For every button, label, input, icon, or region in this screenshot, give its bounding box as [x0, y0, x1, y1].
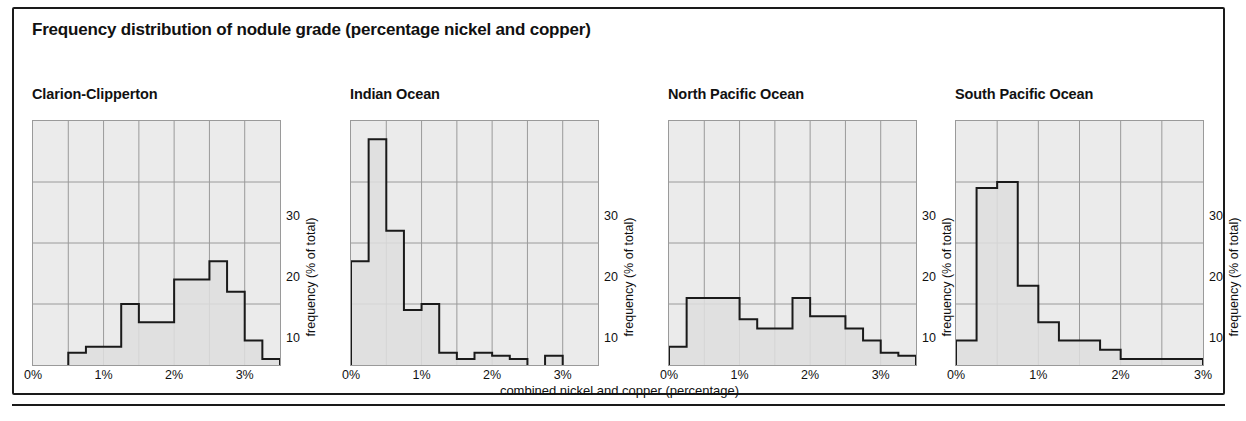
- y-axis-title: frequency (% of total): [304, 0, 324, 154]
- histogram: [669, 121, 916, 365]
- plot-wrap: 0%1%2%3% 102030 frequency (% of total): [350, 120, 599, 366]
- y-tick-label: 10: [922, 331, 936, 345]
- histogram: [351, 121, 598, 365]
- histogram: [956, 121, 1203, 365]
- histogram-fill: [351, 139, 598, 365]
- panel-indian-ocean: Indian Ocean 0%1%2%3% 102030 frequency (…: [350, 86, 646, 386]
- y-tick-label: 30: [604, 209, 618, 223]
- panel-north-pacific-ocean: North Pacific Ocean 0%1%2%3% 102030 freq…: [668, 86, 964, 386]
- panel-title: North Pacific Ocean: [668, 86, 804, 102]
- x-tick-label: 3%: [236, 368, 254, 382]
- histogram-fill: [33, 261, 280, 365]
- y-tick-label: 30: [1209, 209, 1223, 223]
- plot-area: [668, 120, 917, 366]
- x-tick-label: 1%: [413, 368, 431, 382]
- y-tick-label: 30: [922, 209, 936, 223]
- y-axis-title-text: frequency (% of total): [304, 154, 318, 400]
- x-tick-label: 1%: [1029, 368, 1047, 382]
- y-tick-label: 10: [1209, 331, 1223, 345]
- y-tick-label: 20: [1209, 270, 1223, 284]
- panel-title: South Pacific Ocean: [955, 86, 1093, 102]
- y-axis-title-text: frequency (% of total): [622, 154, 636, 400]
- bottom-rule: [12, 404, 1225, 406]
- x-tick-label: 2%: [165, 368, 183, 382]
- panel-south-pacific-ocean: South Pacific Ocean 0%1%2%3% 102030 freq…: [955, 86, 1246, 386]
- x-tick-label: 2%: [483, 368, 501, 382]
- x-tick-label: 2%: [1112, 368, 1130, 382]
- x-tick-label: 2%: [801, 368, 819, 382]
- histogram: [33, 121, 280, 365]
- y-axis-title-text: frequency (% of total): [1227, 154, 1241, 400]
- plot-area: [350, 120, 599, 366]
- y-tick-label: 30: [286, 209, 300, 223]
- plot-area: [32, 120, 281, 366]
- panel-title: Indian Ocean: [350, 86, 440, 102]
- x-tick-label: 3%: [554, 368, 572, 382]
- y-tick-label: 20: [604, 270, 618, 284]
- panel-title: Clarion-Clipperton: [32, 86, 157, 102]
- x-tick-label: 1%: [95, 368, 113, 382]
- x-axis-caption: combined nickel and copper (percentage): [0, 383, 1239, 398]
- x-tick-label: 1%: [731, 368, 749, 382]
- y-tick-label: 20: [922, 270, 936, 284]
- plot-area: [955, 120, 1204, 366]
- y-axis-title: frequency (% of total): [622, 0, 642, 154]
- x-tick-label: 0%: [24, 368, 42, 382]
- panel-clarion-clipperton: Clarion-Clipperton 0%1%2%3% 102030 frequ…: [32, 86, 328, 386]
- x-tick-label: 0%: [660, 368, 678, 382]
- y-axis-title-text: frequency (% of total): [940, 154, 954, 400]
- plot-wrap: 0%1%2%3% 102030 frequency (% of total): [32, 120, 281, 366]
- y-tick-label: 10: [286, 331, 300, 345]
- x-tick-label: 3%: [872, 368, 890, 382]
- plot-wrap: 0%1%2%3% 102030 frequency (% of total): [668, 120, 917, 366]
- y-tick-label: 10: [604, 331, 618, 345]
- y-tick-label: 20: [286, 270, 300, 284]
- x-tick-label: 0%: [342, 368, 360, 382]
- plot-wrap: 0%1%2%3% 102030 frequency (% of total): [955, 120, 1204, 366]
- y-axis-title: frequency (% of total): [1227, 0, 1246, 154]
- x-tick-label: 0%: [947, 368, 965, 382]
